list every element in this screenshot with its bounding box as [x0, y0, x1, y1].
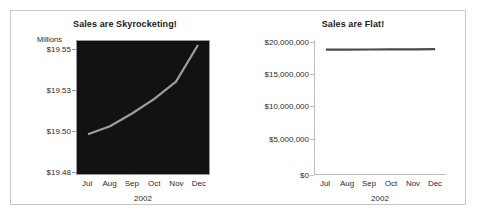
y-tick-mark [310, 175, 314, 176]
chart-panel-flat: Sales are Flat! $20,000,000 $15,000,000 … [239, 11, 467, 204]
series-line-right [315, 40, 446, 174]
y-axis-ticks-right: $20,000,000 $15,000,000 $10,000,000 $5,0… [239, 11, 309, 204]
y-tick-label: $15,000,000 [265, 70, 310, 79]
x-tick-label: Dec [188, 179, 210, 188]
x-tick-label: Aug [98, 179, 120, 188]
x-tick-label: Sep [358, 179, 380, 188]
x-tick-label: Nov [165, 179, 187, 188]
y-tick-label: $19.50 [47, 127, 71, 136]
x-axis-labels-right: Jul Aug Sep Oct Nov Dec [314, 179, 446, 188]
x-tick-label: Dec [424, 179, 446, 188]
plot-area-left [76, 40, 210, 175]
y-tick-label: $19.48 [47, 168, 71, 177]
y-tick-label: $5,000,000 [269, 135, 309, 144]
x-tick-label: Jul [76, 179, 98, 188]
x-tick-label: Jul [314, 179, 336, 188]
x-axis-title-left: 2002 [76, 194, 210, 203]
y-tick-label: $0 [300, 171, 309, 180]
x-tick-label: Sep [121, 179, 143, 188]
chart-panel-skyrocketing: Sales are Skyrocketing! Millions $19.55 … [11, 11, 239, 204]
x-tick-label: Oct [380, 179, 402, 188]
figure-frame: Sales are Skyrocketing! Millions $19.55 … [10, 10, 466, 205]
x-axis-title-right: 2002 [314, 194, 446, 203]
y-tick-label: $20,000,000 [265, 38, 310, 47]
series-line-left [77, 41, 209, 174]
y-axis-ticks-left: $19.55 $19.53 $19.50 $19.48 [11, 11, 71, 204]
x-tick-label: Nov [402, 179, 424, 188]
x-tick-label: Oct [143, 179, 165, 188]
y-tick-label: $19.55 [47, 45, 71, 54]
x-tick-label: Aug [336, 179, 358, 188]
y-tick-label: $19.53 [47, 86, 71, 95]
plot-area-right [314, 40, 446, 175]
y-tick-label: $10,000,000 [265, 102, 310, 111]
x-axis-labels-left: Jul Aug Sep Oct Nov Dec [76, 179, 210, 188]
